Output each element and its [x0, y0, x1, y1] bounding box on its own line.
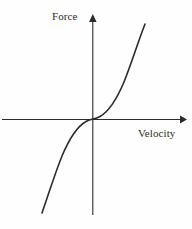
y-axis-label: Force	[52, 10, 78, 22]
x-axis-label: Velocity	[138, 127, 175, 139]
x-axis-arrowhead-icon	[180, 116, 187, 124]
plot-canvas	[0, 0, 192, 229]
y-axis	[89, 14, 97, 215]
y-axis-arrowhead-icon	[89, 14, 97, 22]
cubic-curve-path	[42, 24, 145, 213]
x-axis	[2, 116, 187, 124]
force-velocity-figure: Force Velocity	[0, 0, 192, 229]
cubic-curve	[42, 24, 145, 213]
